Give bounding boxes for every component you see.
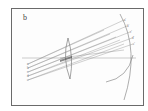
svg-text:a': a' [124, 18, 126, 22]
svg-text:d': d' [132, 36, 135, 40]
svg-text:e: e [27, 78, 29, 82]
focal-curve [106, 55, 133, 82]
image-curve [120, 14, 131, 100]
optics-diagram: a b c d e a' b' c' d' e' [0, 0, 148, 111]
ray-fan [28, 20, 133, 80]
svg-text:e': e' [133, 42, 135, 46]
svg-text:b': b' [127, 24, 130, 28]
object-labels: a b c d e [27, 62, 29, 82]
svg-text:c': c' [130, 30, 132, 34]
